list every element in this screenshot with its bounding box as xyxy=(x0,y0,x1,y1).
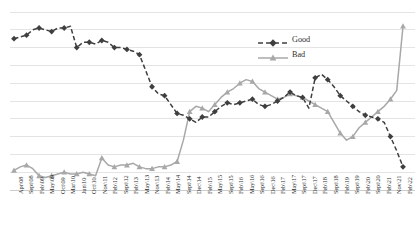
data-point-marker xyxy=(137,164,143,169)
data-point-marker xyxy=(350,103,356,109)
data-point-marker xyxy=(149,84,155,90)
data-point-marker xyxy=(362,112,368,118)
x-axis-tick-label: May\16 xyxy=(248,175,255,194)
x-axis-tick-label: Feb\21 xyxy=(385,177,392,194)
data-point-marker xyxy=(400,23,406,28)
x-axis-tick-label: May\14 xyxy=(174,175,181,194)
data-point-marker xyxy=(11,168,17,173)
x-axis-tick-label: Sept\12 xyxy=(122,175,129,194)
data-point-marker xyxy=(312,75,318,81)
x-axis-tick-label: Feb\16 xyxy=(237,177,244,194)
x-axis-tick-label: May\17 xyxy=(290,175,297,194)
data-point-marker xyxy=(224,89,230,94)
data-point-marker xyxy=(312,102,318,107)
data-point-marker xyxy=(400,164,406,170)
x-axis-tick-label: Sept\14 xyxy=(185,175,192,194)
x-axis-tick-label: Feb\13 xyxy=(132,177,139,194)
x-axis-tick-label: Sept\19 xyxy=(353,175,360,194)
x-axis-tick-label: Sept\08 xyxy=(27,175,34,194)
legend-swatch-good-icon xyxy=(258,34,288,44)
data-point-marker xyxy=(11,36,17,42)
x-axis-tick-label: Sept\20 xyxy=(374,175,381,194)
data-point-marker xyxy=(174,159,180,164)
data-point-marker xyxy=(99,38,105,44)
data-point-marker xyxy=(99,155,105,160)
x-axis-tick-label: Feb\14 xyxy=(164,177,171,194)
x-axis-tick-label: Feb\18 xyxy=(321,177,328,194)
data-point-marker xyxy=(262,103,268,109)
x-axis-tick-label: Feb\22 xyxy=(406,177,413,194)
data-point-marker xyxy=(24,162,30,167)
x-axis-tick-label: Dec\17 xyxy=(311,176,318,194)
x-axis-tick-label: May\13 xyxy=(143,175,150,194)
legend-entry-bad[interactable]: Bad xyxy=(258,48,305,60)
x-axis-tick-label: Oct\10 xyxy=(90,177,97,194)
x-axis-tick-label: Nov\13 xyxy=(153,176,160,194)
x-axis-tick-label: Feb\17 xyxy=(279,177,286,194)
data-point-marker xyxy=(86,39,92,45)
data-point-marker xyxy=(375,116,381,122)
line-chart: Apr\08Sept\08Feb\09May\09Oct\09Mar\10Jun… xyxy=(0,0,419,231)
x-axis-tick-label: Nov\21 xyxy=(395,176,402,194)
x-axis-tick-label: May\15 xyxy=(216,175,223,194)
x-axis-tick-label: Feb\12 xyxy=(111,177,118,194)
x-axis-tick-label: Nov\11 xyxy=(101,176,108,194)
x-axis-tick-label: Feb\09 xyxy=(38,177,45,194)
data-point-marker xyxy=(137,52,143,58)
legend-swatch-bad-icon xyxy=(258,49,288,59)
x-axis-tick-label: Feb\20 xyxy=(364,177,371,194)
x-axis-tick-label: Apr\08 xyxy=(17,177,24,194)
data-point-marker xyxy=(325,109,331,114)
data-point-marker xyxy=(388,134,394,140)
chart-legend: Good Bad xyxy=(258,33,370,63)
data-point-marker xyxy=(262,89,268,94)
x-axis-tick-label: Sept\18 xyxy=(332,175,339,194)
x-axis-tick-label: Sept\17 xyxy=(300,175,307,194)
x-axis-tick-label: Sept\16 xyxy=(258,175,265,194)
x-axis-tick-label: Jun\10 xyxy=(80,178,87,194)
legend-label-good: Good xyxy=(292,35,310,44)
legend-entry-good[interactable]: Good xyxy=(258,33,310,45)
x-axis-tick-label: May\09 xyxy=(48,175,55,194)
x-axis-tick-label: Sept\15 xyxy=(227,175,234,194)
x-axis-tick-label: Mar\10 xyxy=(69,176,76,194)
x-axis-tick-label: Dec\14 xyxy=(195,176,202,194)
x-axis-tick-label: Feb\19 xyxy=(343,177,350,194)
x-axis-tick-label: Dec\16 xyxy=(269,176,276,194)
x-axis-tick-label: Oct\09 xyxy=(59,177,66,194)
x-axis-tick-label: Feb\15 xyxy=(206,177,213,194)
legend-label-bad: Bad xyxy=(292,50,305,59)
